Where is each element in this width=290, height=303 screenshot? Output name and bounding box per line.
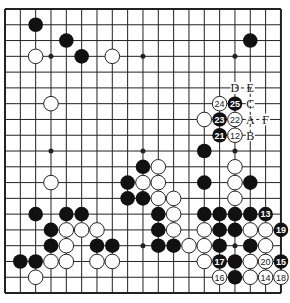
hoshi-point bbox=[48, 54, 53, 59]
black-stone bbox=[59, 207, 74, 222]
move-number-16: 16 bbox=[215, 273, 225, 283]
white-stone bbox=[151, 160, 166, 175]
white-stone bbox=[258, 238, 273, 253]
white-stone bbox=[28, 49, 43, 64]
white-stone bbox=[197, 254, 212, 269]
black-stone bbox=[212, 238, 227, 253]
black-stone bbox=[243, 207, 258, 222]
move-number-22: 22 bbox=[230, 115, 240, 125]
letter-mark-a: A bbox=[246, 113, 255, 127]
move-number-24: 24 bbox=[215, 99, 225, 109]
white-stone bbox=[228, 175, 243, 190]
black-stone bbox=[197, 144, 212, 159]
white-stone bbox=[182, 238, 197, 253]
letter-mark-c: C bbox=[246, 97, 254, 111]
hoshi-point bbox=[140, 54, 145, 59]
black-stone bbox=[120, 175, 135, 190]
black-stone bbox=[228, 223, 243, 238]
black-stone bbox=[151, 223, 166, 238]
black-stone bbox=[13, 254, 28, 269]
black-stone bbox=[28, 207, 43, 222]
black-stone bbox=[243, 238, 258, 253]
black-stone bbox=[243, 33, 258, 48]
black-stone bbox=[166, 238, 181, 253]
hoshi-point bbox=[232, 149, 237, 154]
hoshi-point bbox=[48, 149, 53, 154]
hoshi-point bbox=[232, 243, 237, 248]
white-stone bbox=[228, 191, 243, 206]
move-number-12: 12 bbox=[230, 131, 240, 141]
white-stone bbox=[136, 175, 151, 190]
black-stone bbox=[243, 175, 258, 190]
go-board-diagram: DECAFB1315171921232512141618202224 bbox=[0, 0, 290, 303]
black-stone bbox=[136, 191, 151, 206]
move-number-21: 21 bbox=[215, 131, 225, 141]
white-stone bbox=[258, 223, 273, 238]
move-number-13: 13 bbox=[261, 209, 271, 219]
white-stone bbox=[28, 270, 43, 285]
white-stone bbox=[151, 175, 166, 190]
white-stone bbox=[243, 223, 258, 238]
hoshi-point bbox=[232, 54, 237, 59]
black-stone bbox=[120, 191, 135, 206]
move-number-17: 17 bbox=[215, 257, 225, 267]
white-stone bbox=[151, 191, 166, 206]
white-stone bbox=[44, 96, 59, 111]
white-stone bbox=[105, 49, 120, 64]
black-stone bbox=[44, 238, 59, 253]
move-number-14: 14 bbox=[261, 273, 271, 283]
move-number-23: 23 bbox=[215, 115, 225, 125]
white-stone bbox=[166, 223, 181, 238]
white-stone bbox=[44, 175, 59, 190]
black-stone bbox=[228, 270, 243, 285]
move-number-18: 18 bbox=[276, 273, 286, 283]
black-stone bbox=[105, 238, 120, 253]
black-stone bbox=[74, 207, 89, 222]
white-stone bbox=[74, 223, 89, 238]
white-stone bbox=[243, 254, 258, 269]
black-stone bbox=[28, 17, 43, 32]
letter-mark-d: D bbox=[231, 81, 240, 95]
black-stone bbox=[151, 207, 166, 222]
black-stone bbox=[212, 207, 227, 222]
white-stone bbox=[44, 254, 59, 269]
move-number-15: 15 bbox=[276, 257, 286, 267]
white-stone bbox=[166, 191, 181, 206]
white-stone bbox=[105, 254, 120, 269]
black-stone bbox=[151, 238, 166, 253]
hoshi-point bbox=[140, 149, 145, 154]
letter-mark-e: E bbox=[247, 81, 254, 95]
white-stone bbox=[90, 254, 105, 269]
white-stone bbox=[197, 238, 212, 253]
white-stone bbox=[90, 223, 105, 238]
white-stone bbox=[59, 223, 74, 238]
white-stone bbox=[166, 207, 181, 222]
letter-mark-f: F bbox=[262, 113, 269, 127]
black-stone bbox=[228, 254, 243, 269]
letter-mark-b: B bbox=[246, 129, 254, 143]
white-stone bbox=[197, 112, 212, 127]
move-number-19: 19 bbox=[276, 225, 286, 235]
black-stone bbox=[59, 33, 74, 48]
black-stone bbox=[212, 223, 227, 238]
black-stone bbox=[28, 254, 43, 269]
black-stone bbox=[197, 207, 212, 222]
black-stone bbox=[90, 238, 105, 253]
white-stone bbox=[59, 238, 74, 253]
white-stone bbox=[243, 270, 258, 285]
white-stone bbox=[59, 254, 74, 269]
black-stone bbox=[136, 160, 151, 175]
black-stone bbox=[74, 49, 89, 64]
move-number-20: 20 bbox=[261, 257, 271, 267]
black-stone bbox=[44, 223, 59, 238]
black-stone bbox=[228, 207, 243, 222]
white-stone bbox=[228, 160, 243, 175]
move-number-25: 25 bbox=[230, 99, 240, 109]
hoshi-point bbox=[140, 243, 145, 248]
white-stone bbox=[197, 223, 212, 238]
black-stone bbox=[197, 175, 212, 190]
